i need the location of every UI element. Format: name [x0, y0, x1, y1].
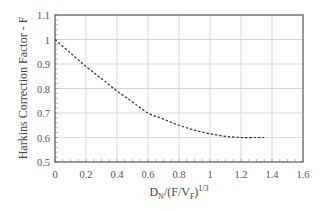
- x-axis-title: DN/(F/VF)1/3: [149, 184, 208, 201]
- y-axis-tick-labels: 0.50.60.70.80.911.1: [37, 10, 50, 168]
- gridlines: [55, 15, 303, 162]
- y-tick-label: 0.7: [37, 108, 50, 119]
- x-axis-tick-labels: 00.20.40.60.811.21.41.6: [52, 169, 309, 180]
- y-tick-label: 0.9: [37, 59, 50, 70]
- y-tick-label: 1: [45, 35, 50, 46]
- x-tick-label: 1: [207, 169, 212, 180]
- x-tick-label: 0.8: [172, 169, 185, 180]
- x-tick-label: 0: [52, 169, 57, 180]
- y-axis-title: Harkins Correction Factor - F: [16, 16, 30, 159]
- x-tick-label: 0.6: [141, 169, 154, 180]
- x-tick-label: 0.2: [79, 169, 92, 180]
- x-tick-label: 1.6: [296, 169, 309, 180]
- x-tick-label: 1.4: [265, 169, 279, 180]
- y-tick-label: 0.8: [37, 84, 50, 95]
- x-tick-label: 0.4: [110, 169, 124, 180]
- y-tick-label: 0.6: [37, 133, 50, 144]
- x-tick-label: 1.2: [234, 169, 247, 180]
- y-tick-label: 0.5: [37, 157, 50, 168]
- y-tick-label: 1.1: [37, 10, 50, 21]
- chart: 00.20.40.60.811.21.41.6 0.50.60.70.80.91…: [0, 0, 324, 211]
